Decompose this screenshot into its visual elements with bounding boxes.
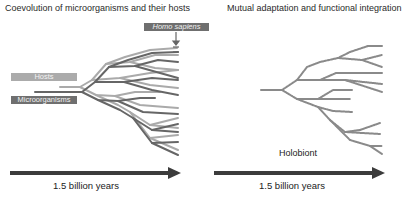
homo-sapiens-label: Homo sapiens <box>144 23 209 31</box>
timeline-label-right: 1.5 billion years <box>259 180 325 191</box>
timeline-arrow-left <box>10 167 181 179</box>
holobiont-tree <box>261 46 382 154</box>
microorganisms-label: Microorganisms <box>11 96 77 104</box>
holobiont-label: Holobiont <box>279 148 317 158</box>
hosts-label: Hosts <box>11 73 77 81</box>
timeline-arrow-right <box>214 167 385 179</box>
timeline-label-left: 1.5 billion years <box>53 180 119 191</box>
